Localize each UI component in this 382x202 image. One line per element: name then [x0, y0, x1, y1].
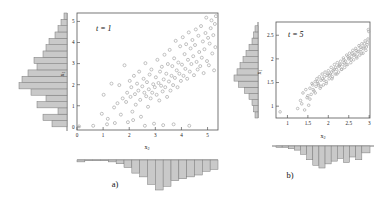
hist-y-bar — [46, 95, 67, 101]
data-point — [154, 76, 157, 79]
panel-b-svg: 11.522.5 11.522.53 x1 x2 t = 5 b) — [228, 0, 382, 202]
data-point — [333, 63, 336, 66]
hist-y-bar — [245, 87, 259, 93]
data-point — [145, 81, 148, 84]
data-point — [186, 58, 189, 61]
hist-y-bar — [254, 106, 259, 112]
hist-y-bar — [249, 93, 258, 99]
data-point — [130, 86, 133, 89]
data-point — [147, 105, 150, 108]
hist-y-bar — [58, 26, 67, 32]
data-point — [205, 16, 208, 19]
data-point — [299, 99, 302, 102]
data-point — [170, 74, 173, 77]
data-point — [303, 109, 306, 112]
data-point — [155, 93, 158, 96]
data-point — [172, 123, 175, 126]
data-point — [187, 31, 190, 34]
data-point — [189, 47, 192, 50]
data-point — [201, 40, 204, 43]
hist-y-bar — [246, 50, 258, 56]
hist-y-bars — [19, 13, 67, 127]
data-point — [209, 27, 212, 30]
data-point — [125, 100, 128, 103]
y-tick-label: 1.5 — [267, 79, 274, 85]
hist-x-bar — [325, 146, 331, 164]
data-point — [113, 106, 116, 109]
hist-x-bar — [313, 146, 319, 165]
data-point — [203, 48, 206, 51]
data-point — [162, 78, 165, 81]
hist-x-bar — [331, 146, 337, 161]
data-point — [188, 124, 191, 127]
data-point — [214, 46, 217, 49]
hist-y-bar — [240, 63, 258, 69]
data-point — [300, 103, 303, 106]
hist-y-bar — [55, 32, 67, 38]
panel-b-x-ticks: 11.522.53 — [286, 115, 371, 126]
hist-y-bar — [254, 32, 259, 38]
data-point — [327, 69, 330, 72]
hist-y-bar — [255, 112, 258, 118]
x-tick-label: 2.5 — [346, 120, 353, 126]
data-point — [198, 51, 201, 54]
data-point — [343, 66, 346, 69]
hist-x-bar — [116, 160, 124, 164]
panel-a: 012345 012345 x1 x2 t = 1 a) — [0, 0, 230, 202]
hist-x-bar — [210, 160, 218, 169]
y-tick-label: 1 — [271, 103, 274, 109]
hist-x-bar — [155, 160, 163, 190]
data-point — [123, 64, 126, 67]
data-point — [174, 39, 177, 42]
data-point — [179, 45, 182, 48]
data-point — [132, 119, 135, 122]
data-point — [106, 117, 109, 120]
data-point — [204, 32, 207, 35]
data-point — [147, 88, 150, 91]
data-point — [172, 84, 175, 87]
hist-x-bar — [140, 160, 148, 177]
data-point — [156, 58, 159, 61]
hist-x-bar — [187, 160, 195, 177]
hist-x-bar — [202, 160, 210, 171]
hist-y-bar — [52, 121, 67, 127]
data-point — [197, 34, 200, 37]
hist-x-bar — [288, 146, 294, 149]
data-point — [186, 77, 189, 80]
data-point — [207, 36, 210, 39]
data-point — [159, 70, 162, 73]
data-point — [206, 60, 209, 63]
hist-x-bar — [124, 160, 132, 168]
data-point — [336, 61, 339, 64]
hist-x-bar — [148, 160, 156, 184]
data-point — [339, 60, 342, 63]
x-tick-label: 0 — [76, 132, 79, 138]
data-point — [181, 36, 184, 39]
data-point — [324, 71, 327, 74]
data-point — [169, 89, 172, 92]
panel-a-xlabel: x2 — [144, 144, 149, 151]
data-point — [166, 63, 169, 66]
data-point — [134, 103, 137, 106]
hist-x-bar — [301, 146, 307, 154]
data-point — [307, 104, 310, 107]
data-point — [149, 97, 152, 100]
data-point — [208, 42, 211, 45]
data-point — [177, 61, 180, 64]
hist-x-bar — [108, 160, 116, 162]
hist-y-bar — [37, 64, 67, 70]
data-point — [211, 52, 214, 55]
hist-x-bar — [307, 146, 313, 160]
data-point — [128, 79, 131, 82]
hist-y-bar — [252, 38, 258, 44]
data-point — [151, 91, 154, 94]
data-point — [171, 65, 174, 68]
data-point — [100, 112, 103, 115]
hist-x-bar — [362, 146, 370, 153]
hist-x-bar — [93, 160, 101, 161]
data-point — [302, 92, 305, 95]
data-point — [330, 66, 333, 69]
hist-x-bar — [132, 160, 140, 173]
data-point — [132, 74, 135, 77]
data-point — [194, 44, 197, 47]
